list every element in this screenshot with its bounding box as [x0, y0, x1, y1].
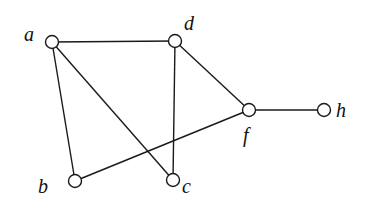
edge-a-d: [52, 41, 175, 42]
edge-d-c: [173, 41, 175, 180]
node-a: [46, 36, 59, 49]
node-c: [167, 174, 180, 187]
node-h: [318, 104, 331, 117]
node-label-h: h: [336, 99, 346, 121]
node-b: [69, 175, 82, 188]
edge-d-f: [175, 41, 249, 110]
node-d: [169, 35, 182, 48]
node-label-d: d: [184, 12, 195, 34]
edges-layer: [52, 41, 324, 181]
node-label-a: a: [24, 23, 34, 45]
node-f: [243, 104, 256, 117]
edge-a-c: [52, 42, 173, 180]
labels-layer: adfhcb: [24, 12, 346, 197]
edge-b-f: [75, 110, 249, 181]
graph-svg: adfhcb: [0, 0, 368, 201]
node-label-b: b: [38, 175, 48, 197]
node-label-f: f: [243, 124, 251, 147]
edge-a-b: [52, 42, 75, 181]
node-label-c: c: [182, 175, 191, 197]
nodes-layer: [46, 35, 331, 188]
graph-diagram: adfhcb: [0, 0, 368, 201]
